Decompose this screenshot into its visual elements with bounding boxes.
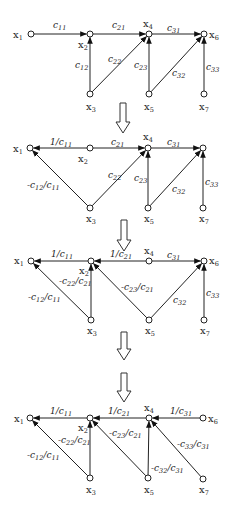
node-x5 [145, 205, 151, 211]
step-arrow-1-icon [116, 103, 130, 133]
node-x2 [87, 145, 93, 151]
node-label-x7: x7 [199, 213, 209, 226]
node-label-x7: x7 [200, 325, 210, 338]
edge-gain-label-x4-x6: c31 [167, 250, 180, 262]
edge-gain-label-x5-x6: c32 [172, 184, 185, 196]
edge-gain-label-x4-x2: 1/c21 [110, 249, 132, 261]
node-x3 [87, 475, 93, 481]
edge-gain-label-x2-x1: 1/c11 [50, 406, 72, 418]
node-label-x5: x5 [144, 484, 154, 497]
edge-x5-to-x6 [150, 151, 201, 206]
node-x5 [146, 317, 152, 323]
signal-flow-graph-canvas: c11c12c21c22c23c31c32c33x1x2x3x4x5x6x71/… [0, 0, 234, 511]
node-x1 [27, 415, 33, 421]
node-label-x7: x7 [199, 101, 209, 114]
final-graph: 1/c11-c12/c111/c21-c22/c21-c23/c211/c31-… [14, 402, 218, 497]
edge-gain-label-x5-x4: -c32/c31 [151, 463, 184, 475]
node-x2 [88, 258, 94, 264]
node-label-x1: x1 [14, 413, 24, 426]
node-label-x3: x3 [87, 325, 97, 338]
node-label-x7: x7 [199, 484, 209, 497]
edge-gain-label-x4-x6: c31 [167, 23, 180, 35]
edge-gain-label-x5-x6: c32 [172, 68, 185, 80]
node-x6 [200, 415, 206, 421]
edge-gain-label-x3-x2: -c22/c21 [58, 435, 91, 447]
node-label-x4: x4 [143, 131, 153, 144]
node-label-x4: x4 [144, 245, 154, 258]
node-x6 [201, 258, 207, 264]
node-x4 [146, 31, 152, 37]
edge-gain-label-x1-x2: c11 [53, 20, 66, 32]
node-x1 [27, 145, 33, 151]
node-x7 [200, 476, 206, 482]
node-x4 [145, 145, 151, 151]
edge-x5-to-x6 [151, 37, 202, 92]
edge-gain-label-x2-x4: c21 [111, 137, 124, 149]
edge-gain-label-x3-x4: c22 [108, 170, 121, 182]
node-x3 [88, 317, 94, 323]
edge-gain-label-x5-x6: c32 [173, 295, 186, 307]
node-x7 [201, 91, 207, 97]
edge-gain-label-x7-x6: c33 [206, 62, 219, 74]
edge-gain-label-x5-x2: -c23/c21 [109, 428, 142, 440]
edge-gain-label-x5-x2: -c23/c21 [121, 282, 154, 294]
node-x4 [146, 415, 152, 421]
node-label-x2: x2 [78, 39, 88, 52]
step-arrow-3-icon [117, 332, 131, 360]
edge-gain-label-x7-x6: c33 [205, 177, 218, 189]
edge-gain-label-x3-x4: c22 [108, 54, 121, 66]
node-label-x5: x5 [144, 101, 154, 114]
edge-gain-label-x3-x1: -c12/c11 [27, 180, 60, 192]
node-x7 [201, 317, 207, 323]
edge-gain-label-x2-x1: 1/c11 [50, 137, 72, 149]
original-graph: c11c12c21c22c23c31c32c33x1x2x3x4x5x6x7 [13, 18, 219, 114]
node-label-x4: x4 [144, 402, 154, 415]
node-label-x5: x5 [145, 325, 155, 338]
node-x3 [87, 91, 93, 97]
node-x5 [146, 91, 152, 97]
node-label-x1: x1 [13, 143, 23, 156]
edge-gain-label-x5-x4: c23 [134, 173, 147, 185]
node-label-x1: x1 [13, 29, 23, 42]
node-x3 [87, 205, 93, 211]
node-label-x3: x3 [86, 213, 96, 226]
node-label-x5: x5 [144, 213, 154, 226]
edge-gain-label-x5-x4: c23 [134, 60, 147, 72]
node-label-x6: x6 [208, 413, 218, 426]
node-x7 [200, 205, 206, 211]
graphs: c11c12c21c22c23c31c32c33x1x2x3x4x5x6x71/… [13, 18, 219, 497]
node-label-x4: x4 [143, 18, 153, 31]
node-label-x3: x3 [86, 101, 96, 114]
edge-gain-label-x3-x1: -c12/c11 [27, 450, 60, 462]
edge-gain-label-x6-x4: 1/c31 [170, 406, 192, 418]
edge-gain-label-x3-x2: c12 [75, 60, 88, 72]
node-label-x3: x3 [86, 484, 96, 497]
edge-gain-label-x2-x4: c21 [112, 20, 125, 32]
node-x6 [200, 145, 206, 151]
edge-x5-to-x2 [92, 421, 145, 476]
diagram-svg: c11c12c21c22c23c31c32c33x1x2x3x4x5x6x71/… [0, 0, 234, 511]
node-x1 [28, 258, 34, 264]
node-x1 [28, 31, 34, 37]
step-arrow-2-icon [117, 220, 131, 251]
edge-gain-label-x3-x1: -c12/c11 [28, 292, 61, 304]
edge-gain-label-x7-x6: c33 [206, 288, 219, 300]
node-x2 [87, 415, 93, 421]
node-x2 [87, 31, 93, 37]
step-1-graph: 1/c11-c12/c11c21c22c23c31c32c33x1x2x3x4x… [13, 131, 218, 226]
step-arrow-4-icon [117, 373, 131, 402]
node-label-x6: x6 [209, 255, 219, 268]
edge-gain-label-x2-x1: 1/c11 [51, 249, 73, 261]
node-x4 [146, 258, 152, 264]
edge-gain-label-x4-x6: c31 [167, 137, 180, 149]
edge-x5-to-x4 [148, 421, 149, 475]
edge-gain-label-x4-x2: 1/c21 [108, 406, 130, 418]
edge-x5-to-x6 [151, 264, 202, 318]
node-label-x2: x2 [78, 422, 88, 435]
node-x6 [201, 31, 207, 37]
node-label-x6: x6 [209, 29, 219, 42]
node-label-x1: x1 [14, 255, 24, 268]
node-x5 [145, 475, 151, 481]
node-label-x2: x2 [78, 153, 88, 166]
step-2-graph: 1/c11-c12/c111/c21-c22/c21-c23/c21c31c32… [14, 245, 219, 338]
